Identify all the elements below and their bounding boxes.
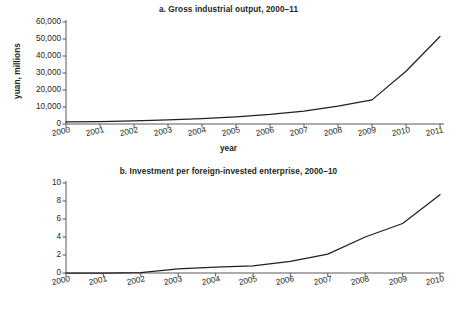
y-tick-label: 10,000 — [36, 102, 61, 111]
y-tick-label: 8 — [56, 196, 61, 205]
y-tick-label: 30,000 — [36, 68, 61, 77]
y-tick-label: 50,000 — [36, 34, 61, 43]
y-tick-label: 6 — [56, 214, 61, 223]
data-series-line — [66, 36, 440, 122]
y-tick-label: 4 — [56, 232, 61, 241]
y-tick-label: 40,000 — [36, 51, 61, 60]
y-tick-label: 10 — [52, 178, 61, 187]
y-tick-label: 60,000 — [36, 17, 61, 26]
y-tick-label: 2 — [56, 250, 61, 259]
chart-panel-b: b. Investment per foreign-invested enter… — [0, 157, 457, 317]
y-tick-label: 20,000 — [36, 85, 61, 94]
figure-container: a. Gross industrial output, 2000–11 yuan… — [0, 0, 457, 317]
data-series-line — [66, 195, 440, 273]
chart-panel-a: a. Gross industrial output, 2000–11 yuan… — [0, 0, 457, 160]
chart-b-plot — [0, 157, 457, 317]
